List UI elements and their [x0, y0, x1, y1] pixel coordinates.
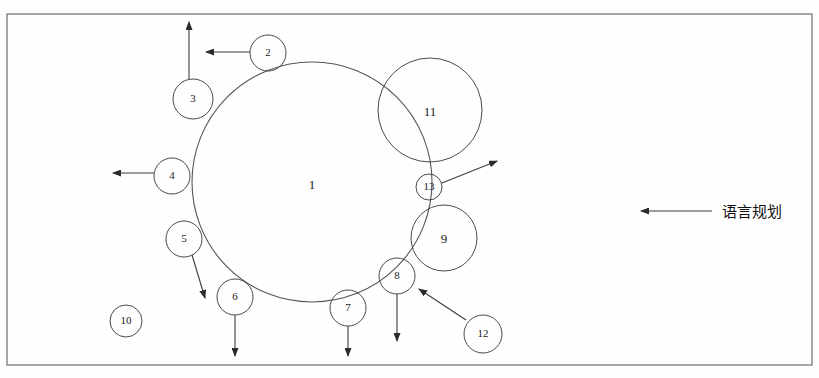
node-label-2: 2: [265, 46, 271, 58]
diagram-root: 11192345678101213 语言规划: [0, 0, 819, 378]
node-label-12: 12: [478, 327, 489, 339]
node-label-1: 1: [309, 177, 316, 192]
node-label-4: 4: [169, 169, 175, 181]
arrow-from-12-to-8: [419, 289, 466, 320]
node-label-11: 11: [424, 104, 437, 119]
arrow-from-5-downright: [192, 255, 205, 298]
node-label-7: 7: [345, 301, 351, 313]
connector-arrows-group: [113, 22, 497, 356]
node-label-9: 9: [441, 231, 448, 246]
arrow-from-13-upright: [442, 161, 497, 183]
node-label-6: 6: [232, 290, 238, 302]
legend-label: 语言规划: [722, 203, 782, 221]
node-label-5: 5: [181, 232, 187, 244]
node-label-13: 13: [424, 180, 436, 192]
node-label-3: 3: [190, 92, 196, 104]
node-label-8: 8: [394, 269, 400, 281]
node-label-10: 10: [121, 314, 133, 326]
diagram-canvas: 11192345678101213 语言规划: [0, 0, 819, 378]
diagram-frame: [7, 14, 812, 365]
